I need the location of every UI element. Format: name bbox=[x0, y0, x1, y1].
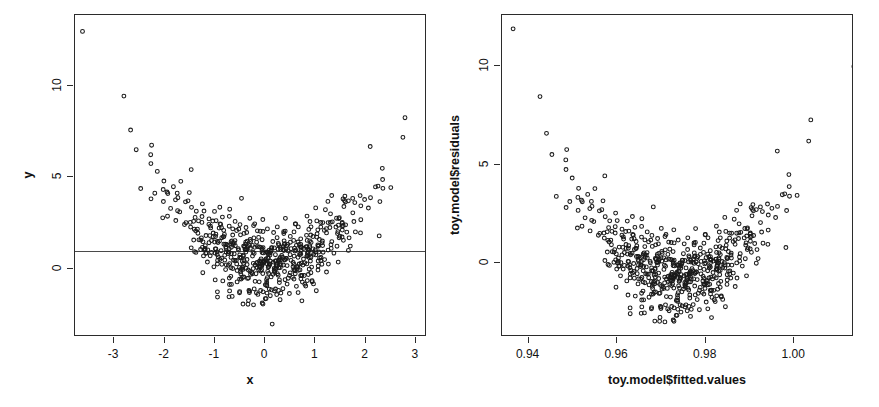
x-tick-label-right-3: 1.00 bbox=[782, 347, 805, 361]
x-axis-label-right: toy.model$fitted.values bbox=[608, 373, 746, 387]
plot-surface-left bbox=[75, 15, 425, 335]
x-tick-label-left-0: -3 bbox=[108, 347, 119, 361]
x-tick-label-left-5: 2 bbox=[361, 347, 368, 361]
x-tick-left-0 bbox=[113, 337, 114, 343]
plot-box-left bbox=[74, 14, 426, 336]
y-tick-right-0 bbox=[494, 262, 500, 263]
scatter-points-right bbox=[502, 15, 852, 335]
x-tick-label-left-1: -2 bbox=[158, 347, 169, 361]
x-tick-left-3 bbox=[264, 337, 265, 343]
x-tick-left-5 bbox=[365, 337, 366, 343]
x-tick-left-1 bbox=[164, 337, 165, 343]
x-tick-label-right-1: 0.96 bbox=[604, 347, 627, 361]
plot-panel-left: -3-2-10123 0510 x y bbox=[0, 0, 440, 407]
x-tick-right-0 bbox=[528, 337, 529, 343]
plot-panel-right: 0.940.960.981.00 0510 toy.model$fitted.v… bbox=[440, 0, 879, 407]
y-tick-left-1 bbox=[67, 176, 73, 177]
y-tick-left-2 bbox=[67, 85, 73, 86]
x-tick-right-1 bbox=[616, 337, 617, 343]
y-tick-right-1 bbox=[494, 164, 500, 165]
y-tick-label-right-0: 0 bbox=[477, 259, 491, 266]
y-tick-label-right-1: 5 bbox=[477, 160, 491, 167]
x-tick-right-3 bbox=[793, 337, 794, 343]
y-tick-left-0 bbox=[67, 268, 73, 269]
x-tick-label-left-4: 1 bbox=[311, 347, 318, 361]
plot-surface-right bbox=[502, 15, 852, 335]
y-tick-label-right-2: 10 bbox=[477, 59, 491, 72]
x-tick-label-left-6: 3 bbox=[412, 347, 419, 361]
x-axis-label-left: x bbox=[247, 373, 254, 387]
y-tick-label-left-2: 10 bbox=[50, 79, 64, 92]
x-tick-left-6 bbox=[415, 337, 416, 343]
y-tick-right-2 bbox=[494, 65, 500, 66]
x-tick-label-right-2: 0.98 bbox=[693, 347, 716, 361]
scatter-points-left bbox=[75, 15, 425, 335]
x-tick-label-left-3: 0 bbox=[261, 347, 268, 361]
figure-canvas: -3-2-10123 0510 x y 0.940.960.981.00 051… bbox=[0, 0, 879, 407]
x-tick-left-4 bbox=[314, 337, 315, 343]
y-axis-label-right: toy.model$residuals bbox=[448, 115, 462, 235]
x-tick-label-left-2: -1 bbox=[208, 347, 219, 361]
y-tick-label-left-1: 5 bbox=[50, 173, 64, 180]
x-tick-left-2 bbox=[214, 337, 215, 343]
y-tick-label-left-0: 0 bbox=[50, 264, 64, 271]
plot-box-right bbox=[501, 14, 853, 336]
x-tick-label-right-0: 0.94 bbox=[516, 347, 539, 361]
y-axis-label-left: y bbox=[21, 172, 35, 179]
x-tick-right-2 bbox=[705, 337, 706, 343]
